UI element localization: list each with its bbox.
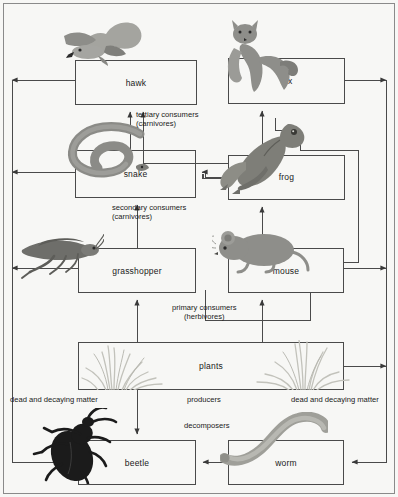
node-label-grasshopper: grasshopper (78, 266, 196, 276)
node-label-snake: snake (75, 169, 196, 179)
trophic-label-secondary-line1: secondary consumers (112, 203, 186, 212)
node-label-mouse: mouse (228, 266, 344, 276)
matter-label-left: dead and decaying matter (10, 395, 98, 404)
trophic-label-producers: producers (187, 395, 221, 404)
trophic-label-decomposers: decomposers (184, 421, 230, 430)
trophic-label-tertiary-line2: (carnivores) (136, 119, 198, 128)
trophic-label-tertiary-line1: tertiary consumers (136, 110, 198, 119)
node-label-fox: fox (228, 76, 345, 86)
node-label-plants: plants (78, 361, 344, 371)
node-label-beetle: beetle (78, 458, 196, 468)
node-label-frog: frog (228, 172, 345, 182)
trophic-label-secondary: secondary consumers (carnivores) (112, 203, 186, 222)
trophic-label-tertiary: tertiary consumers (carnivores) (136, 110, 198, 129)
node-label-hawk: hawk (75, 78, 197, 88)
trophic-label-primary-line2: (herbivores) (172, 312, 237, 321)
trophic-label-primary-line1: primary consumers (172, 303, 237, 312)
node-label-worm: worm (228, 458, 344, 468)
trophic-label-secondary-line2: (carnivores) (112, 212, 186, 221)
trophic-label-producers-line1: producers (187, 395, 221, 404)
trophic-label-decomposers-line1: decomposers (184, 421, 230, 430)
food-web-diagram: hawk fox snake frog grasshopper mouse pl… (0, 0, 398, 497)
matter-label-right: dead and decaying matter (291, 395, 379, 404)
trophic-label-primary: primary consumers (herbivores) (172, 303, 237, 322)
